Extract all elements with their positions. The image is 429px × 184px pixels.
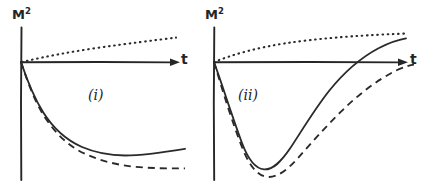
figure-root: M2 t (i) M2 t (ii) xyxy=(0,0,429,184)
panel-ii-x-axis-label: t xyxy=(410,52,417,66)
panel-i-x-axis-arrowhead xyxy=(170,59,180,66)
panel-ii-curve-solid xyxy=(214,38,406,169)
panel-i-y-axis xyxy=(21,28,22,181)
panel-i-y-axis-exponent: 2 xyxy=(25,6,31,16)
panel-ii-group xyxy=(214,28,414,181)
panel-ii-curve-dotted xyxy=(214,34,405,62)
panel-i-label: (i) xyxy=(88,88,103,102)
panel-ii-y-axis xyxy=(214,28,215,181)
panel-ii-y-axis-label: M2 xyxy=(205,8,224,21)
panel-i-y-axis-label-base: M xyxy=(12,7,25,22)
figure-canvas xyxy=(0,0,429,184)
panel-i-curve-solid xyxy=(21,62,185,156)
panel-ii-y-axis-label-base: M xyxy=(205,7,218,22)
panel-ii-y-axis-exponent: 2 xyxy=(218,6,224,16)
panel-ii-x-axis-arrowhead xyxy=(398,59,408,66)
panel-i-curve-dotted xyxy=(22,38,176,62)
panel-i-group xyxy=(21,28,185,181)
panel-i-y-axis-label: M2 xyxy=(12,8,31,21)
panel-ii-label: (ii) xyxy=(238,88,258,102)
panel-i-x-axis-label: t xyxy=(181,52,188,66)
panel-ii-curve-dashed xyxy=(214,62,414,177)
